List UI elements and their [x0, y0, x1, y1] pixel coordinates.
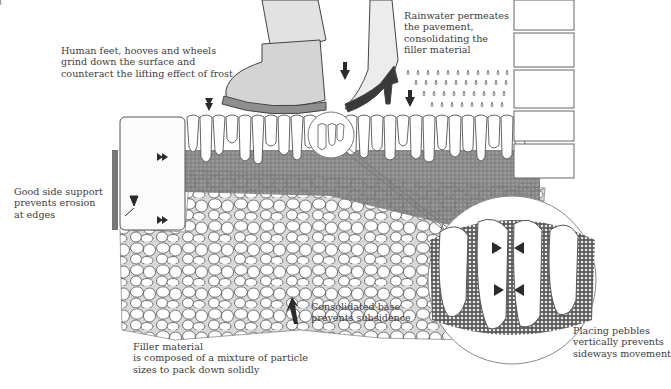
label-line: consolidating the: [404, 33, 509, 44]
label-line: the pavement,: [404, 21, 509, 32]
label-line: Consolidated base: [311, 301, 411, 312]
label-traffic: Human feet, hooves and wheels grind down…: [61, 45, 233, 79]
label-consolidated-base: Consolidated base prevents subsidence: [311, 301, 411, 324]
label-line: vertically prevents: [573, 336, 671, 347]
heel-drawing: [345, 0, 398, 112]
label-line: grind down the surface and: [61, 56, 233, 67]
label-side-support: Good side support prevents erosion at ed…: [14, 186, 103, 220]
label-line: at edges: [14, 209, 103, 220]
label-line: filler material: [404, 44, 509, 55]
label-line: counteract the lifting effect of frost: [61, 68, 233, 79]
label-line: sizes to pack down solidly: [133, 364, 308, 375]
down-arrow-icon: [405, 90, 415, 107]
label-rainwater: Rainwater permeates the pavement, consol…: [404, 10, 509, 56]
label-line: is composed of a mixture of particle: [133, 352, 308, 363]
brick-wall: [514, 0, 574, 178]
label-filler-material: Filler material is composed of a mixture…: [133, 341, 308, 375]
boot-drawing: [222, 0, 326, 114]
magnified-detail: [428, 196, 596, 364]
label-line: Rainwater permeates: [404, 10, 509, 21]
label-line: prevents erosion: [14, 197, 103, 208]
down-arrow-icon: [205, 98, 213, 111]
label-line: prevents subsidence: [311, 312, 411, 323]
side-support-curb: [112, 117, 185, 230]
down-arrow-icon: [340, 62, 350, 80]
label-line: Placing pebbles: [573, 325, 671, 336]
label-line: Human feet, hooves and wheels: [61, 45, 233, 56]
label-line: Filler material: [133, 341, 308, 352]
label-line: Good side support: [14, 186, 103, 197]
label-line: sideways movement: [573, 348, 671, 359]
label-placing-pebbles: Placing pebbles vertically prevents side…: [573, 325, 671, 359]
